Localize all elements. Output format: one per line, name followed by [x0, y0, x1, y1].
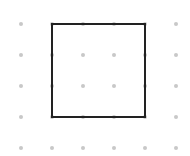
grid-dot [174, 84, 178, 88]
grid-dot [81, 84, 85, 88]
grid-dot [19, 146, 23, 150]
grid-dot [19, 22, 23, 26]
grid-dot [174, 115, 178, 119]
grid-dot [19, 53, 23, 57]
grid-dot [112, 53, 116, 57]
grid-dot [174, 146, 178, 150]
grid-dot [143, 146, 147, 150]
grid-dot [174, 53, 178, 57]
grid-dot [174, 22, 178, 26]
square-shape [52, 24, 145, 117]
grid-dot [112, 146, 116, 150]
grid-dots [19, 22, 178, 150]
grid-dot [19, 84, 23, 88]
grid-dot [112, 84, 116, 88]
grid-dot [19, 115, 23, 119]
grid-dot [81, 146, 85, 150]
grid-dot [50, 146, 54, 150]
dot-grid-diagram [0, 0, 190, 156]
grid-dot [81, 53, 85, 57]
